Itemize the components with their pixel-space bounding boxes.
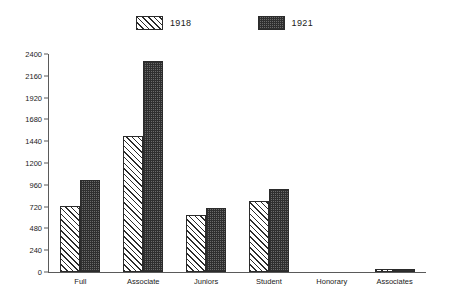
y-tick-mark-1920 [44, 97, 48, 98]
bar-student-1921 [269, 189, 289, 272]
bar-associate-1921 [143, 61, 163, 272]
legend-entry-1918: 1918 [136, 16, 192, 30]
x-label-associate: Associate [127, 277, 160, 286]
y-tick-mark-720 [44, 206, 48, 207]
bar-associates-1921 [395, 269, 415, 272]
y-tick-mark-1440 [44, 141, 48, 142]
bar-juniors-1918 [186, 215, 206, 272]
x-label-student: Student [256, 277, 282, 286]
y-tick-mark-2160 [44, 75, 48, 76]
chart-legend: 19181921 [0, 12, 449, 34]
bar-student-1918 [249, 201, 269, 272]
y-tick-mark-2400 [44, 54, 48, 55]
y-tick-mark-240 [44, 250, 48, 251]
x-label-associates: Associates [376, 277, 412, 286]
y-tick-mark-0 [44, 272, 48, 273]
legend-label-1921: 1921 [292, 18, 314, 28]
legend-swatch-1921 [258, 16, 285, 30]
bar-chart: 19181921 0240480720960120014401680192021… [0, 0, 449, 307]
bar-groups [49, 54, 426, 272]
y-tick-mark-1680 [44, 119, 48, 120]
bar-group-honorary [300, 54, 363, 272]
bar-full-1921 [80, 180, 100, 272]
y-tick-mark-1200 [44, 163, 48, 164]
plot-area: 0240480720960120014401680192021602400 Fu… [48, 54, 426, 272]
bar-associates-1918 [375, 269, 395, 272]
bar-group-student [238, 54, 301, 272]
legend-label-1918: 1918 [170, 18, 192, 28]
legend-swatch-1918 [136, 16, 163, 30]
legend-entry-1921: 1921 [258, 16, 314, 30]
bar-group-juniors [175, 54, 238, 272]
bar-group-associates [363, 54, 426, 272]
y-tick-mark-480 [44, 228, 48, 229]
x-label-juniors: Juniors [194, 277, 218, 286]
bar-group-full [49, 54, 112, 272]
y-tick-mark-960 [44, 184, 48, 185]
x-label-full: Full [74, 277, 86, 286]
x-label-honorary: Honorary [316, 277, 347, 286]
bar-full-1918 [60, 206, 80, 272]
x-axis-line [48, 272, 426, 273]
bar-juniors-1921 [206, 208, 226, 272]
bar-group-associate [112, 54, 175, 272]
bar-associate-1918 [123, 136, 143, 272]
